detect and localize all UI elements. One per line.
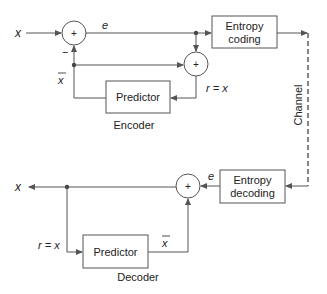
entropy-decoding-line2: decoding bbox=[230, 187, 275, 199]
reconstruction-to-decoder-predictor bbox=[67, 187, 82, 252]
encoder-reconstruction-label: r = x bbox=[206, 82, 228, 94]
encoder-predictor-label: Predictor bbox=[116, 91, 160, 103]
channel: Channel bbox=[277, 33, 308, 186]
decoder: Entropy decoding e + x r = x Predictor x… bbox=[14, 170, 285, 283]
reconstruction-to-predictor bbox=[171, 76, 196, 98]
entropy-coding-line1: Entropy bbox=[226, 20, 264, 32]
channel-label: Channel bbox=[292, 85, 304, 126]
decoder-error-label: e bbox=[208, 170, 214, 182]
decoder-summer-sign: + bbox=[185, 181, 191, 192]
svg-text:x: x bbox=[161, 237, 168, 249]
encoder-summer2-sign: + bbox=[193, 59, 199, 70]
encoder-title: Encoder bbox=[114, 119, 155, 131]
decoder-predictor-label: Predictor bbox=[93, 246, 137, 258]
diagram-canvas: x + e Entropy coding − + x Predictor r =… bbox=[0, 0, 327, 294]
decoder-reconstruction-label: r = x bbox=[38, 239, 60, 251]
encoder-input-label: x bbox=[14, 26, 22, 40]
entropy-coding-line2: coding bbox=[228, 33, 260, 45]
encoder-error-label: e bbox=[102, 19, 108, 31]
decoder-title: Decoder bbox=[117, 271, 159, 283]
minus-sign: − bbox=[62, 46, 68, 58]
encoder-summer-sign: + bbox=[71, 28, 77, 39]
prediction-to-decoder-summer bbox=[148, 199, 188, 252]
decoder-prediction-label: x bbox=[161, 236, 170, 249]
encoder-prediction-label: x bbox=[57, 73, 66, 86]
encoder: x + e Entropy coding − + x Predictor r =… bbox=[14, 16, 277, 131]
dpcm-block-diagram: x + e Entropy coding − + x Predictor r =… bbox=[0, 0, 327, 294]
entropy-decoding-line1: Entropy bbox=[234, 174, 272, 186]
svg-text:x: x bbox=[57, 74, 64, 86]
decoder-output-label: x bbox=[14, 180, 22, 194]
